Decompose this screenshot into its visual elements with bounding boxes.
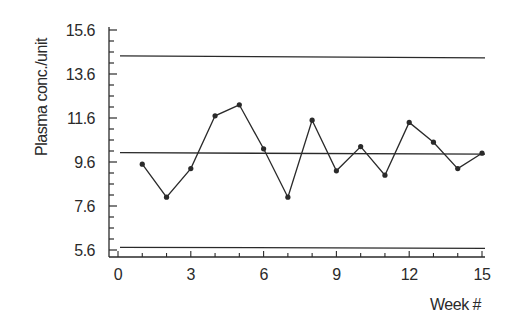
data-point-marker — [261, 146, 266, 151]
y-tick-label: 13.6 — [66, 66, 96, 83]
axes — [109, 27, 485, 257]
x-tick-label: 15 — [474, 266, 491, 283]
y-tick-label: 9.6 — [74, 154, 95, 171]
data-point-marker — [358, 144, 363, 149]
center-line-mean-line — [120, 153, 485, 155]
data-point-marker — [237, 102, 242, 107]
x-tick-label: 3 — [187, 266, 196, 283]
x-tick-label: 0 — [114, 266, 123, 283]
upper-control-limit-line — [120, 56, 485, 58]
y-tick-label: 7.6 — [74, 198, 95, 215]
data-point-marker — [455, 166, 460, 171]
lower-control-limit-line — [120, 247, 485, 248]
y-tick-label: 15.6 — [66, 22, 96, 39]
x-tick-label: 9 — [332, 266, 341, 283]
data-point-marker — [479, 151, 484, 156]
y-axis-title: Plasma conc./unit — [33, 37, 50, 156]
data-point-marker — [334, 168, 339, 173]
x-axis-title: Week # — [430, 296, 482, 313]
data-point-marker — [382, 173, 387, 178]
data-point-marker — [407, 120, 412, 125]
control-chart: 5.67.69.611.613.615.603691215 Plasma con… — [0, 0, 518, 331]
data-point-marker — [310, 118, 315, 123]
data-series — [140, 102, 485, 200]
data-point-marker — [188, 166, 193, 171]
data-point-marker — [285, 195, 290, 200]
x-tick-label: 12 — [401, 266, 418, 283]
x-tick-label: 6 — [259, 266, 268, 283]
y-tick-label: 5.6 — [74, 242, 95, 259]
data-point-marker — [212, 113, 217, 118]
data-point-marker — [164, 195, 169, 200]
data-point-marker — [431, 140, 436, 145]
y-tick-label: 11.6 — [67, 110, 96, 127]
data-point-marker — [140, 162, 145, 167]
